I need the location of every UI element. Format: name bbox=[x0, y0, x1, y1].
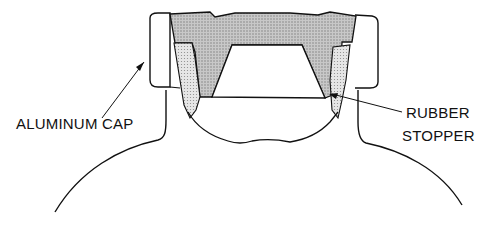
vial-body-left bbox=[55, 90, 166, 212]
label-rubber-stopper-line2: STOPPER bbox=[402, 127, 475, 144]
aluminum-cap bbox=[150, 13, 170, 87]
label-rubber-stopper-line1: RUBBER bbox=[406, 104, 470, 121]
label-aluminum-cap: ALUMINUM CAP bbox=[16, 115, 133, 132]
diagram-canvas: ALUMINUM CAP RUBBER STOPPER bbox=[0, 0, 489, 226]
